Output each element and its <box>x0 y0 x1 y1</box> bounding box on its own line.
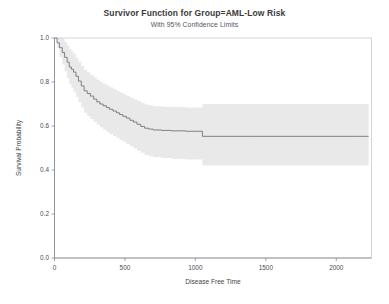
y-tick-label: 0.4 <box>40 166 49 173</box>
x-tick-label: 1000 <box>188 264 203 271</box>
confidence-band-layer <box>55 38 369 166</box>
x-tick-label: 500 <box>120 264 131 271</box>
survival-chart: Survivor Function for Group=AML-Low Risk… <box>0 0 389 304</box>
x-tick-label: 2000 <box>329 264 344 271</box>
y-tick-label: 0.2 <box>40 210 49 217</box>
x-tick-label: 1500 <box>259 264 274 271</box>
y-tick-label: 0.8 <box>40 78 49 85</box>
x-tick-label: 0 <box>53 264 57 271</box>
y-tick-label: 0.6 <box>40 122 49 129</box>
y-tick-label: 0.0 <box>40 254 49 261</box>
plot-canvas: 0.00.20.40.60.81.00500100015002000Diseas… <box>0 0 389 304</box>
y-axis-title: Survival Probability <box>15 119 23 176</box>
y-tick-label: 1.0 <box>40 34 49 41</box>
x-axis-title: Disease Free Time <box>185 278 241 285</box>
